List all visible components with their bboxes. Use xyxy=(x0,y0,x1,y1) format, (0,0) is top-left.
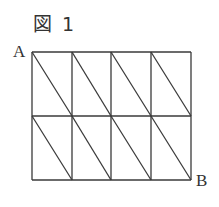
grid-diagram xyxy=(0,0,219,207)
diagonal-r0-c0 xyxy=(32,52,72,116)
diagonal-r0-c1 xyxy=(72,52,111,116)
diagonal-r1-c1 xyxy=(72,116,111,180)
diagonal-r0-c2 xyxy=(111,52,151,116)
diagonal-r1-c0 xyxy=(32,116,72,180)
diagonal-r0-c3 xyxy=(151,52,191,116)
diagonal-r1-c3 xyxy=(151,116,191,180)
diagonal-r1-c2 xyxy=(111,116,151,180)
